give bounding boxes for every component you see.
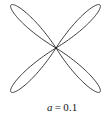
caption-value: 0.1 bbox=[63, 101, 77, 113]
figure-caption: a=0.1 bbox=[0, 97, 107, 118]
rose-curve-figure: a=0.1 bbox=[0, 0, 107, 118]
plot-area bbox=[0, 0, 107, 97]
plot-background bbox=[0, 0, 107, 97]
caption-math-expression: a=0.1 bbox=[29, 91, 77, 118]
caption-operator: = bbox=[53, 101, 63, 113]
caption-variable: a bbox=[47, 101, 53, 113]
rose-curve-plot bbox=[0, 0, 107, 97]
